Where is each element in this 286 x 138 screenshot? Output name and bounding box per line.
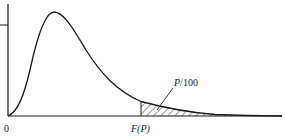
origin-label: 0 bbox=[4, 123, 9, 134]
threshold-label: F(P) bbox=[130, 123, 151, 135]
density-curve bbox=[8, 12, 282, 116]
density-diagram: 0 F(P) P/100 bbox=[0, 0, 286, 138]
tail-area-label: P/100 bbox=[173, 77, 198, 88]
